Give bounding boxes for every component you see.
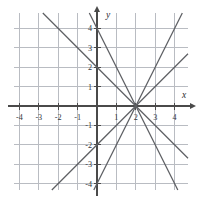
coordinate-graph-figure: -4-3-2-112344321-1-2-3-4 y x [0,0,199,202]
x-axis-label: x [181,90,187,100]
x-tick-label: -1 [74,113,81,122]
line-slope-neg1 [43,13,188,158]
plotted-lines [43,13,188,190]
x-tick-label: 1 [114,113,118,122]
grid-lines [14,13,188,190]
coordinate-plane-svg: -4-3-2-112344321-1-2-3-4 y x [0,0,199,202]
y-tick-label: 1 [88,83,92,92]
axes [8,6,196,196]
y-axis-label: y [105,10,111,20]
y-tick-label: 3 [88,44,92,53]
x-tick-label: 3 [153,113,157,122]
y-tick-label: -3 [85,160,92,169]
y-tick-label: -4 [85,180,92,189]
x-tick-label: -4 [16,113,23,122]
x-tick-label: 4 [173,113,177,122]
x-tick-label: -2 [55,113,62,122]
y-tick-label: 2 [88,63,92,72]
line-slope-neg2 [89,13,178,190]
line-slope-pos2 [94,13,183,190]
x-tick-label: -3 [35,113,42,122]
y-tick-label: 4 [88,24,92,33]
x-tick-label: 2 [134,113,138,122]
y-tick-label: -2 [85,141,92,150]
x-axis-arrow-icon [190,103,196,109]
y-axis-arrow-icon [94,6,100,12]
y-tick-label: -1 [85,121,92,130]
